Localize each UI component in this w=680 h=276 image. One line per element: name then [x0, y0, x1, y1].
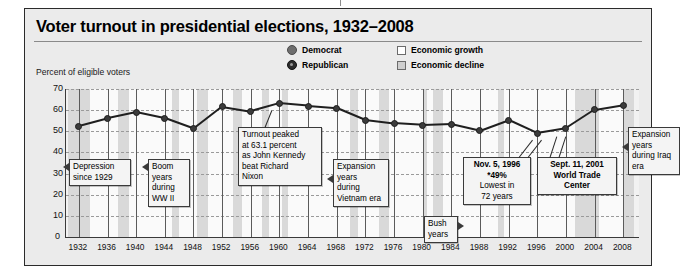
page-crop-marks: [0, 0, 675, 6]
data-point-1936[interactable]: [104, 115, 111, 122]
legend-label-republican: Republican: [302, 60, 348, 70]
callout-bush-years: Bush years: [424, 216, 458, 243]
data-point-1996[interactable]: [534, 130, 541, 137]
data-point-1984[interactable]: [448, 121, 455, 128]
callout-vietnam: Expansion years during Vietnam era: [333, 159, 389, 207]
y-axis-label-30: 30: [39, 168, 63, 178]
y-axis-label-10: 10: [39, 210, 63, 220]
callout-iraq: Expansion years during Iraq era: [628, 127, 680, 175]
callout-sept-11: Sept. 11, 2001 World Trade Center: [537, 157, 617, 195]
callout-bush-beak: [458, 222, 464, 230]
callout-depression: Depression since 1929: [69, 159, 131, 186]
data-point-1980[interactable]: [419, 122, 426, 129]
callout-911-line2: World Trade: [553, 171, 600, 180]
callout-boom-line1: Boom: [152, 162, 186, 173]
y-axis-label-0: 0: [55, 231, 60, 241]
legend-item-democrat: Democrat: [287, 45, 342, 55]
callout-kennedy-peak: Turnout peaked at 63.1 percent as John K…: [238, 127, 322, 186]
data-point-1972[interactable]: [362, 117, 369, 124]
callout-1996-line3: Lowest in: [467, 181, 527, 192]
data-point-2000[interactable]: [562, 125, 569, 132]
callout-iraq-line3: during Iraq: [632, 151, 676, 162]
callout-iraq-line4: era: [632, 162, 676, 173]
callout-vietnam-beak: [327, 175, 333, 183]
callout-kennedy-line1: Turnout peaked: [242, 130, 318, 141]
figure-panel: Voter turnout in presidential elections,…: [24, 8, 652, 266]
x-axis-label-2008: 2008: [605, 242, 639, 252]
callout-boom-wwii: Boom years during WW II: [148, 159, 190, 207]
y-axis-caption: Percent of eligible voters: [36, 67, 130, 77]
callout-1996-line2: *49%: [487, 171, 507, 180]
callout-iraq-beak: [622, 143, 628, 151]
y-axis-label-20: 20: [39, 189, 63, 199]
callout-911-line3: Center: [564, 181, 590, 190]
callout-1996-line4: 72 years: [467, 192, 527, 203]
callout-bush-line2: years: [428, 230, 454, 241]
line-segment: [365, 119, 394, 125]
data-point-1956[interactable]: [247, 108, 254, 115]
callout-lowest-1996: Nov. 5, 1996 *49% Lowest in 72 years: [463, 157, 531, 205]
data-point-1988[interactable]: [476, 127, 483, 134]
callout-depression-beak: [63, 163, 69, 171]
callout-1996-line1: Nov. 5, 1996: [474, 160, 521, 169]
callout-kennedy-line5: Nixon: [242, 172, 318, 183]
callout-iraq-line1: Expansion: [632, 130, 676, 141]
data-point-2008[interactable]: [620, 102, 627, 109]
callout-boom-beak: [142, 163, 148, 171]
callout-boom-line4: WW II: [152, 194, 186, 205]
callout-vietnam-line4: Vietnam era: [337, 194, 385, 205]
data-point-1940[interactable]: [133, 109, 140, 116]
callout-boom-line2: years: [152, 173, 186, 184]
y-axis-label-70: 70: [39, 83, 63, 93]
y-axis-label-50: 50: [39, 125, 63, 135]
democrat-marker-icon: [287, 45, 297, 55]
data-point-1948[interactable]: [190, 125, 197, 132]
line-segment: [279, 102, 308, 107]
callout-911-line1: Sept. 11, 2001: [550, 160, 604, 169]
title-divider: [34, 41, 642, 42]
economic-growth-swatch-icon: [397, 46, 406, 55]
callout-kennedy-line2: at 63.1 percent: [242, 141, 318, 152]
legend: Democrat Republican Economic growth Econ…: [287, 45, 587, 75]
callout-kennedy-line3: as John Kennedy: [242, 151, 318, 162]
y-axis-label-40: 40: [39, 146, 63, 156]
callout-depression-line2: since 1929: [73, 173, 127, 184]
crop-tick: [340, 0, 341, 6]
callout-boom-line3: during: [152, 183, 186, 194]
callout-vietnam-line3: during: [337, 183, 385, 194]
legend-label-democrat: Democrat: [302, 45, 342, 55]
republican-marker-icon: [287, 60, 297, 70]
legend-item-economic-growth: Economic growth: [397, 45, 483, 55]
legend-label-economic-decline: Economic decline: [411, 60, 484, 70]
data-point-1964[interactable]: [305, 103, 312, 110]
data-point-1992[interactable]: [505, 117, 512, 124]
legend-item-economic-decline: Economic decline: [397, 60, 484, 70]
page-title: Voter turnout in presidential elections,…: [36, 17, 414, 36]
callout-depression-line1: Depression: [73, 162, 127, 173]
callout-vietnam-line1: Expansion: [337, 162, 385, 173]
data-point-1952[interactable]: [219, 103, 226, 110]
economic-decline-swatch-icon: [397, 61, 406, 70]
data-point-1944[interactable]: [161, 115, 168, 122]
legend-label-economic-growth: Economic growth: [411, 45, 483, 55]
data-point-1960[interactable]: [276, 100, 283, 107]
callout-vietnam-line2: years: [337, 173, 385, 184]
data-point-2004[interactable]: [591, 106, 598, 113]
data-point-1968[interactable]: [333, 105, 340, 112]
y-axis-label-60: 60: [39, 104, 63, 114]
data-point-1932[interactable]: [75, 123, 82, 130]
callout-bush-line1: Bush: [428, 219, 454, 230]
data-point-1976[interactable]: [391, 120, 398, 127]
line-segment: [565, 109, 595, 130]
callout-iraq-line2: years: [632, 141, 676, 152]
callout-kennedy-line4: beat Richard: [242, 162, 318, 173]
line-segment: [193, 106, 223, 130]
legend-item-republican: Republican: [287, 60, 348, 70]
